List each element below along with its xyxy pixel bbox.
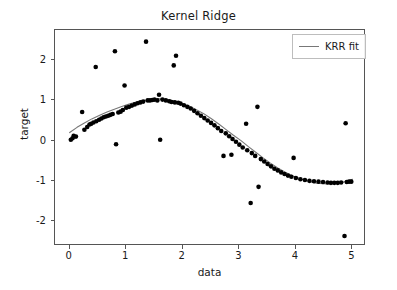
scatter-point	[316, 179, 321, 184]
scatter-point	[93, 65, 98, 70]
scatter-point	[289, 175, 294, 180]
plot-area: KRR fit	[54, 29, 365, 245]
scatter-point	[256, 185, 261, 190]
scatter-point	[80, 110, 85, 115]
scatter-point	[171, 63, 176, 68]
x-tick-label: 0	[66, 250, 72, 261]
scatter-point	[307, 179, 312, 184]
scatter-point	[144, 39, 149, 44]
y-tick-label: 2	[14, 54, 46, 65]
scatter-point	[245, 148, 250, 153]
scatter-point	[339, 180, 344, 185]
x-tick-label: 5	[348, 250, 354, 261]
x-tick-label: 3	[235, 250, 241, 261]
x-axis-label: data	[54, 266, 365, 278]
scatter-point	[343, 121, 348, 126]
legend-line-swatch	[299, 46, 319, 47]
scatter-point	[321, 180, 326, 185]
scatter-point	[303, 178, 308, 183]
scatter-point	[240, 145, 245, 150]
scatter-point	[349, 179, 354, 184]
scatter-point	[248, 201, 253, 206]
scatter-point	[294, 176, 299, 181]
krr-fit-polyline	[70, 99, 353, 184]
scatter-point	[291, 156, 296, 161]
scatter-point	[229, 152, 234, 157]
scatter-point	[253, 154, 258, 159]
scatter-point	[110, 112, 115, 117]
legend-label-krr-fit: KRR fit	[325, 41, 359, 52]
scatter-point	[298, 177, 303, 182]
x-tick-label: 2	[179, 250, 185, 261]
chart-title: Kernel Ridge	[0, 9, 397, 23]
scatter-point	[174, 53, 179, 58]
scatter-point	[255, 105, 260, 110]
scatter-points	[69, 39, 354, 238]
matplotlib-figure: Kernel Ridge target data 210-1-2 012345 …	[0, 0, 397, 290]
x-tick-label: 1	[122, 250, 128, 261]
scatter-point	[141, 99, 146, 104]
scatter-point	[244, 121, 249, 126]
scatter-point	[74, 134, 79, 139]
krr-fit-line	[70, 99, 353, 184]
scatter-point	[113, 49, 118, 54]
scatter-point	[157, 92, 162, 97]
y-tick-label: -2	[14, 215, 46, 226]
scatter-point	[114, 142, 119, 147]
scatter-point	[155, 98, 160, 103]
scatter-point	[219, 129, 224, 134]
scatter-point	[158, 138, 163, 143]
scatter-point	[342, 234, 347, 239]
scatter-point	[312, 179, 317, 184]
scatter-point	[122, 83, 127, 88]
legend-box[interactable]: KRR fit	[292, 34, 366, 59]
y-tick-label: -1	[14, 174, 46, 185]
plot-canvas	[55, 30, 366, 246]
x-tick-label: 4	[292, 250, 298, 261]
y-tick-label: 0	[14, 134, 46, 145]
y-tick-label: 1	[14, 94, 46, 105]
scatter-point	[221, 154, 226, 159]
